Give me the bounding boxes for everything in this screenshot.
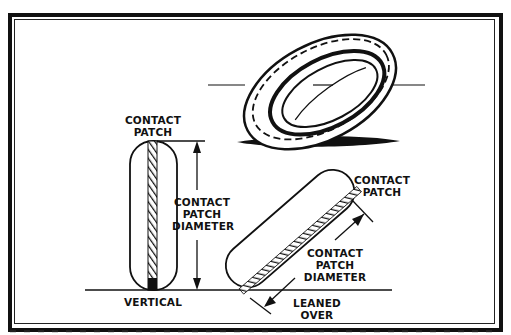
label-vertical: VERTICAL <box>120 296 186 308</box>
diagram-artwork <box>0 0 511 335</box>
tire-vertical-section-icon <box>130 141 177 290</box>
tire-perspective-icon <box>208 11 425 173</box>
label-vertical-diameter: CONTACT PATCH DIAMETER <box>172 196 232 232</box>
label-leaned-over: LEANED OVER <box>290 297 344 321</box>
label-vertical-contact-patch: CONTACT PATCH <box>120 114 186 138</box>
scan-artifact <box>10 330 500 333</box>
label-leaned-contact-patch: CONTACT PATCH <box>352 174 412 198</box>
label-leaned-diameter: CONTACT PATCH DIAMETER <box>303 247 367 283</box>
